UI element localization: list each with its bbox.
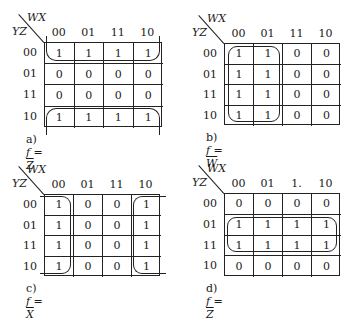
kmap-cell: 0	[134, 64, 164, 85]
kmap-caption: d) f = Z	[206, 282, 225, 321]
row-header: 11	[20, 239, 40, 252]
caption-lhs: f =	[26, 146, 43, 159]
kmap-cell: 0	[134, 85, 164, 106]
column-header: 01	[253, 177, 282, 190]
row-header: 10	[20, 260, 40, 273]
kmap-cell: 0	[74, 236, 103, 257]
kmap-cell: 0	[75, 85, 105, 106]
grouping-loop	[46, 36, 160, 61]
column-variable-label: WX	[27, 11, 46, 24]
column-variable-label: WX	[207, 12, 226, 25]
column-header: 10	[131, 178, 160, 191]
row-header: 01	[200, 68, 220, 81]
kmap-cell: 0	[283, 194, 312, 215]
column-variable-label: WX	[27, 163, 46, 176]
grouping-loop	[46, 108, 160, 135]
row-variable-label: YZ	[12, 25, 27, 38]
kmap-cell: 0	[103, 257, 132, 278]
row-header: 10	[20, 110, 40, 123]
grouping-loop	[227, 217, 337, 253]
row-header: 11	[200, 88, 220, 101]
column-header: 10	[311, 177, 340, 190]
row-variable-label: YZ	[192, 176, 207, 189]
kmap-cell: 0	[104, 64, 134, 85]
row-header: 00	[200, 47, 220, 60]
column-header: 11	[282, 27, 311, 40]
column-header: 00	[224, 177, 253, 190]
kmap-cell: 0	[283, 256, 312, 277]
kmap-cell: 0	[75, 64, 105, 85]
kmap-cell: 0	[45, 85, 75, 106]
caption-label: c)	[26, 282, 36, 295]
grouping-loop	[133, 196, 166, 274]
row-header: 01	[200, 218, 220, 231]
kmap-cell: 0	[283, 65, 312, 86]
column-header: 1.	[282, 177, 311, 190]
kmap-cell: 0	[254, 256, 283, 277]
column-header: 01	[73, 178, 102, 191]
kmap-cell: 0	[74, 216, 103, 237]
kmap-cell: 0	[225, 256, 254, 277]
column-header: 10	[311, 27, 340, 40]
kmap-cell: 0	[45, 64, 75, 85]
kmap-cell: 0	[103, 195, 132, 216]
caption-lhs: f =	[206, 144, 223, 157]
row-header: 11	[20, 88, 40, 101]
caption-label: d)	[206, 282, 217, 295]
caption-rhs-complement: Z	[206, 308, 214, 321]
kmap-caption: c) f = X	[26, 282, 44, 321]
kmap-cell: 0	[312, 65, 341, 86]
row-header: 10	[200, 109, 220, 122]
kmap-cell: 0	[103, 216, 132, 237]
kmap-cell: 0	[312, 44, 341, 65]
kmap-cell: 0	[103, 236, 132, 257]
column-header: 11	[102, 178, 131, 191]
kmap-cell: 0	[312, 85, 341, 106]
kmap-cell: 0	[225, 194, 254, 215]
kmap-cell: 0	[312, 194, 341, 215]
row-header: 11	[200, 239, 220, 252]
row-header: 00	[200, 197, 220, 210]
row-header: 01	[20, 67, 40, 80]
kmap-cell: 0	[74, 195, 103, 216]
grouping-loop	[40, 196, 71, 274]
column-header: 00	[224, 27, 253, 40]
caption-rhs-complement: X	[26, 308, 34, 321]
row-variable-label: YZ	[12, 177, 27, 190]
column-variable-label: WX	[207, 162, 226, 175]
kmap-cell: 0	[74, 257, 103, 278]
kmap-cell: 0	[312, 256, 341, 277]
row-header: 01	[20, 219, 40, 232]
caption-label: a)	[26, 133, 37, 146]
kmap-cell: 0	[283, 44, 312, 65]
kmap-cell: 0	[283, 85, 312, 106]
row-header: 10	[200, 259, 220, 272]
row-header: 00	[20, 198, 40, 211]
column-header: 00	[44, 178, 73, 191]
row-variable-label: YZ	[192, 26, 207, 39]
row-header: 00	[20, 46, 40, 59]
caption-label: b)	[206, 131, 217, 144]
column-header: 01	[253, 27, 282, 40]
caption-lhs: f =	[26, 295, 43, 308]
kmap-cell: 0	[283, 106, 312, 127]
kmap-cell: 0	[312, 106, 341, 127]
kmap-cell: 0	[104, 85, 134, 106]
kmap-cell: 0	[254, 194, 283, 215]
caption-lhs: f =	[206, 295, 223, 308]
grouping-loop	[228, 46, 280, 122]
